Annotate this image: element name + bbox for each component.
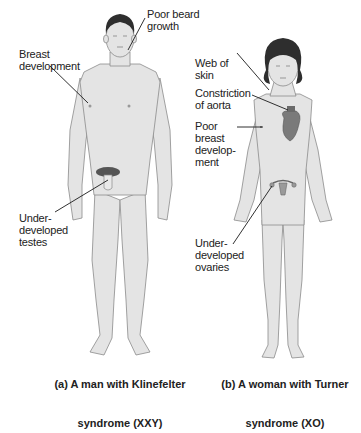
caption-a-line2: syndrome (XXY)	[30, 417, 210, 430]
label-poor-breast-development: Poor breast develop- ment	[195, 120, 236, 168]
caption-a: (a) A man with Klinefelter syndrome (XXY…	[30, 352, 210, 433]
label-underdeveloped-ovaries: Under- developed ovaries	[195, 237, 244, 273]
label-underdeveloped-testes: Under- developed testes	[19, 212, 68, 248]
label-constriction-of-aorta: Constriction of aorta	[195, 87, 251, 111]
male-figure	[68, 19, 172, 355]
caption-b-line2: syndrome (XO)	[210, 417, 360, 430]
male-nipple-left	[89, 105, 92, 108]
caption-b-line1: (b) A woman with Turner	[210, 378, 360, 391]
male-genitals	[104, 175, 112, 190]
caption-b: (b) A woman with Turner syndrome (XO)	[210, 352, 360, 433]
label-web-of-skin: Web of skin	[195, 57, 228, 81]
aorta-vessels	[287, 106, 295, 112]
label-breast-development: Breast development	[19, 48, 80, 72]
male-nipple-right	[128, 105, 131, 108]
caption-a-line1: (a) A man with Klinefelter	[30, 378, 210, 391]
label-poor-beard-growth: Poor beard growth	[147, 8, 199, 32]
